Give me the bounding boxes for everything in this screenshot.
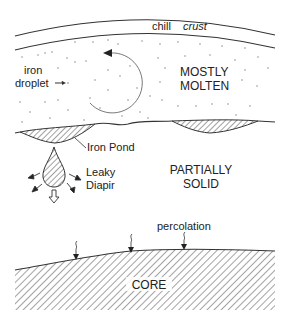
core: CORE [15,249,275,310]
iron-label: iron [24,64,42,76]
leaky-label: Leaky [86,166,116,178]
diapir-drop [43,147,65,187]
diapir-label: Diapir [86,179,115,191]
iron-droplet-callout: iron droplet [15,64,69,89]
iron-pond-callout: Iron Pond [75,138,135,153]
hollow-down-arrow-icon [49,190,59,203]
mostly-label: MOSTLY [180,65,228,79]
chill-label: chill [152,20,171,32]
iron-pond-label: Iron Pond [87,141,135,153]
droplet-label: droplet [15,77,49,89]
crust-label: crust [183,20,208,32]
partially-label: PARTIALLY [170,163,233,177]
crust-bottom-line [15,33,275,50]
percolation-label: percolation [157,220,211,232]
percolation-arrow-icon [73,241,79,260]
molten-solid-boundary [15,120,275,143]
iron-pond-right [172,120,258,133]
solid-label: SOLID [183,177,219,191]
magma-ocean-diagram: chill crust iron drople [0,0,291,329]
iron-droplets [19,39,268,122]
circular-arrow-icon [90,49,142,113]
leaky-diapir: Leaky Diapir [28,147,116,203]
chill-crust: chill crust [15,20,275,50]
iron-pond-left [20,124,95,143]
percolation-arrow-icon [128,234,134,253]
molten-label: MOLTEN [180,79,229,93]
core-label: CORE [132,278,167,292]
percolation-arrow-icon [181,232,187,250]
